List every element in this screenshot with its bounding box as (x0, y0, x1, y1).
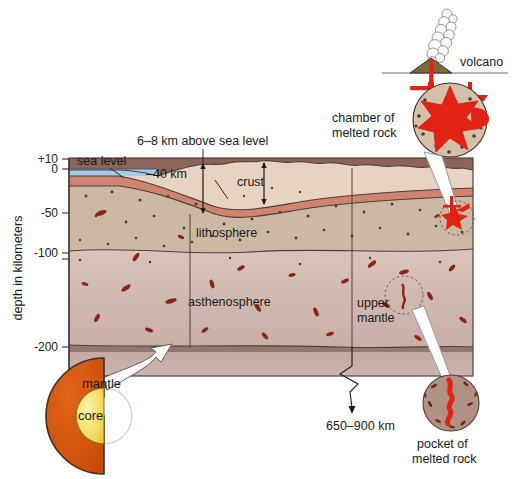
sea-level-label: sea level (77, 154, 126, 168)
crust-thickness-label: –40 km (146, 167, 187, 181)
figure-canvas: +10 0 -50 -100 -200 depth in kilometers … (0, 0, 522, 479)
pocket-callout: pocket of melted rock (412, 375, 479, 466)
upper-mantle-label-line2: mantle (357, 311, 395, 325)
chamber-label-line2: melted rock (332, 126, 397, 140)
asthenosphere-label: asthenosphere (188, 295, 271, 309)
axis-tick-zero: 0 (51, 162, 58, 176)
smoke-plume (427, 9, 457, 65)
volcano-label: volcano (460, 55, 503, 69)
elevation-callout-label: 6–8 km above sea level (137, 134, 268, 148)
core-label: core (78, 408, 103, 423)
axis-title: depth in kilometers (11, 216, 25, 321)
asthenosphere-layer (69, 249, 473, 347)
chamber-label-line1: chamber of (332, 111, 395, 125)
geology-cross-section-diagram: +10 0 -50 -100 -200 depth in kilometers … (0, 0, 522, 479)
axis-tick-minus100: -100 (34, 246, 58, 260)
pocket-magma (447, 380, 452, 424)
depth-range-label: 650–900 km (326, 419, 395, 433)
axis-tick-minus50: -50 (41, 206, 59, 220)
cross-section-block (69, 158, 473, 376)
crust-label: crust (237, 175, 265, 189)
depth-axis: +10 0 -50 -100 -200 depth in kilometers (11, 152, 69, 376)
lithosphere-label: lithosphere (196, 226, 257, 240)
axis-tick-minus200: -200 (34, 340, 58, 354)
pocket-label-line1: pocket of (417, 437, 468, 451)
upper-mantle-label-line1: upper (357, 296, 389, 310)
pocket-label-line2: melted rock (412, 452, 477, 466)
mantle-label: mantle (82, 376, 121, 391)
